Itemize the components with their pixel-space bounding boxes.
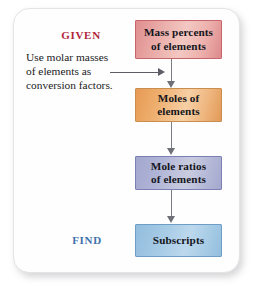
- conversion-note-line-1: Use molar masses: [26, 50, 130, 64]
- connector-shaft-1: [171, 59, 172, 82]
- flow-box-moles: Moles of elements: [135, 88, 222, 122]
- connector-arrow-head-2-icon: [167, 148, 175, 155]
- note-arrow-head-icon: [158, 68, 165, 76]
- conversion-note-line-3: conversion factors.: [26, 78, 130, 92]
- connector-arrow-head-1-icon: [167, 81, 175, 88]
- flow-box-subscripts: Subscripts: [135, 224, 222, 257]
- flow-box-subscripts-line-1: Subscripts: [153, 234, 204, 247]
- flow-box-mass-percents: Mass percents of elements: [135, 20, 222, 59]
- connector-arrow-head-3-icon: [167, 216, 175, 223]
- flow-box-mole-ratios-line-2: of elements: [151, 173, 206, 186]
- note-arrow-shaft: [110, 72, 159, 73]
- connector-shaft-2: [171, 122, 172, 149]
- given-label: GIVEN: [40, 29, 122, 41]
- flow-box-mass-percents-line-2: of elements: [151, 40, 206, 53]
- connector-shaft-3: [171, 190, 172, 217]
- find-label: FIND: [52, 234, 122, 246]
- flow-box-mole-ratios: Mole ratios of elements: [135, 156, 222, 190]
- flow-box-mass-percents-line-1: Mass percents: [144, 26, 213, 39]
- flow-box-mole-ratios-line-1: Mole ratios: [151, 160, 206, 173]
- flow-box-moles-line-1: Moles of: [158, 92, 200, 105]
- flow-box-moles-line-2: elements: [157, 105, 199, 118]
- figure-canvas: GIVEN Use molar masses of elements as co…: [0, 0, 254, 286]
